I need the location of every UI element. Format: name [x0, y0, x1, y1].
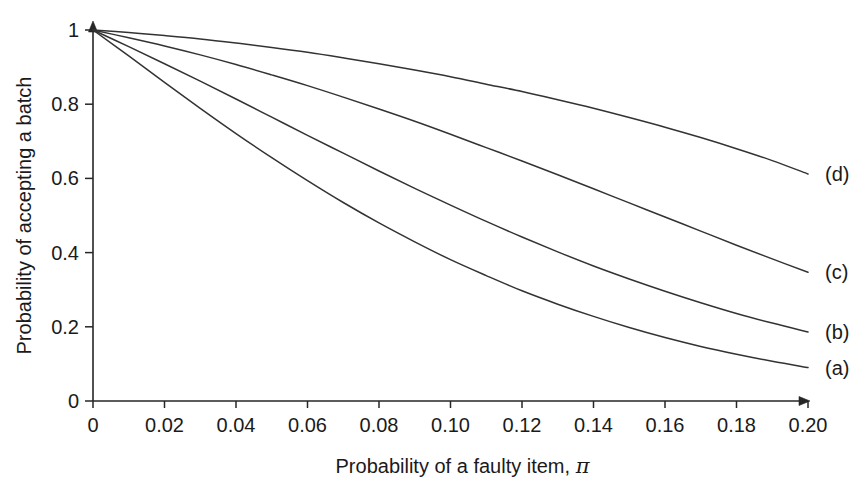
y-axis-title: Probability of accepting a batch — [13, 77, 35, 355]
curve-label-d: (d) — [825, 163, 849, 185]
x-tick-label-6: 0.12 — [503, 414, 542, 436]
y-tick-label-4: 0.8 — [51, 93, 79, 115]
y-tick-label-2: 0.4 — [51, 242, 79, 264]
curve-c — [93, 30, 808, 272]
y-tick-label-3: 0.6 — [51, 167, 79, 189]
x-tick-label-2: 0.04 — [217, 414, 256, 436]
curve-label-b: (b) — [825, 321, 849, 343]
curve-d — [93, 30, 808, 174]
x-tick-label-0: 0 — [87, 414, 98, 436]
x-tick-label-7: 0.14 — [574, 414, 613, 436]
x-tick-label-10: 0.20 — [789, 414, 828, 436]
y-tick-label-5: 1 — [68, 19, 79, 41]
curve-label-c: (c) — [825, 261, 848, 283]
x-tick-label-3: 0.06 — [288, 414, 327, 436]
curve-b — [93, 30, 808, 332]
curve-labels-group: (d)(c)(b)(a) — [825, 163, 849, 379]
x-tick-label-1: 0.02 — [145, 414, 184, 436]
x-tick-label-9: 0.18 — [717, 414, 756, 436]
y-tick-label-0: 0 — [68, 390, 79, 412]
x-tick-label-8: 0.16 — [646, 414, 685, 436]
x-tick-label-5: 0.10 — [431, 414, 470, 436]
curve-label-a: (a) — [825, 357, 849, 379]
ticks-group — [85, 30, 808, 408]
x-tick-label-4: 0.08 — [360, 414, 399, 436]
oc-curve-chart: 00.020.040.060.080.100.120.140.160.180.2… — [0, 0, 866, 495]
x-axis-title: Probability of a faulty item, π — [336, 454, 591, 478]
data-curves-group — [93, 30, 808, 368]
tick-labels-group: 00.020.040.060.080.100.120.140.160.180.2… — [51, 19, 827, 436]
y-tick-label-1: 0.2 — [51, 316, 79, 338]
chart-plot-area: 00.020.040.060.080.100.120.140.160.180.2… — [0, 0, 866, 495]
